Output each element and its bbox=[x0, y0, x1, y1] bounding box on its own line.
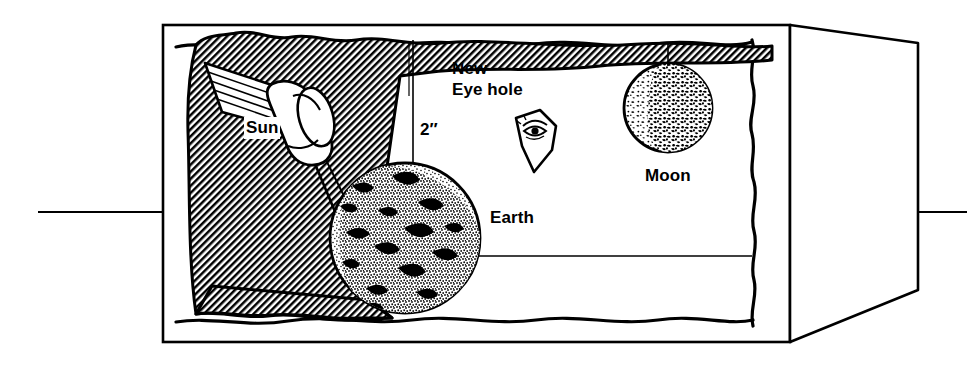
box-right-wall bbox=[790, 25, 918, 342]
label-earth: Earth bbox=[490, 208, 534, 228]
label-eye-hole: Eye hole bbox=[452, 80, 523, 100]
label-moon: Moon bbox=[645, 166, 691, 186]
box-model-illustration bbox=[0, 0, 967, 366]
figure-canvas: Sun New Eye hole 2″ Earth Moon bbox=[0, 0, 967, 366]
label-dimension: 2″ bbox=[420, 120, 438, 140]
label-sun: Sun bbox=[244, 117, 280, 139]
label-new: New bbox=[452, 59, 487, 79]
